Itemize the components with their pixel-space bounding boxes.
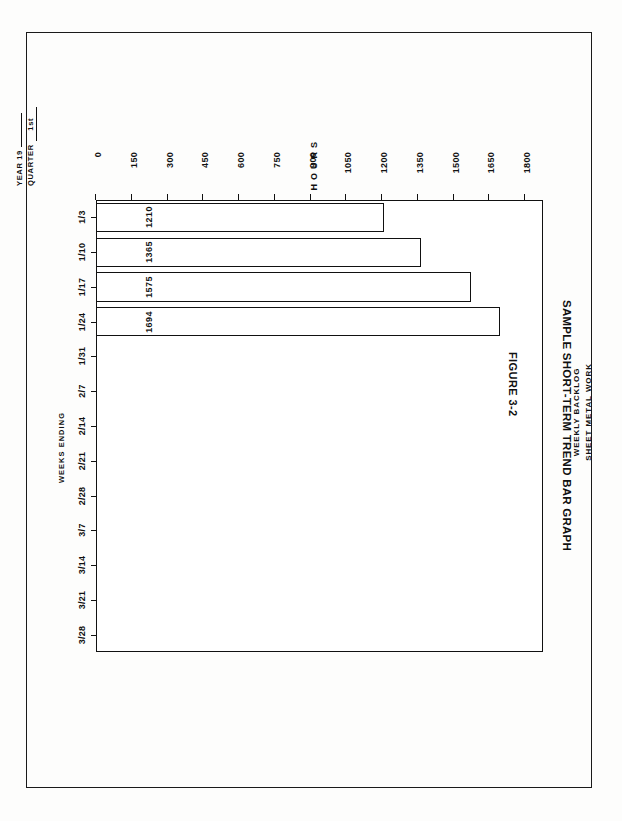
x-axis-tick bbox=[91, 565, 96, 566]
bar-chart: 1210136515751694 1/31/101/171/241/312/72… bbox=[91, 200, 543, 661]
x-axis-tick bbox=[91, 322, 96, 323]
x-axis-tick bbox=[91, 496, 96, 497]
y-axis-tick-label: 1200 bbox=[379, 152, 389, 190]
x-axis-tick-label: 2/21 bbox=[77, 444, 87, 478]
figure-caption: SAMPLE SHORT-TERM TREND BAR GRAPH bbox=[561, 300, 573, 551]
bar-value-label: 1694 bbox=[144, 306, 154, 338]
x-axis-tick bbox=[91, 356, 96, 357]
y-axis-tick bbox=[238, 194, 239, 200]
bar-value-label: 1365 bbox=[144, 236, 154, 268]
x-axis-tick bbox=[91, 461, 96, 462]
bar bbox=[96, 203, 384, 232]
x-axis-tick bbox=[91, 426, 96, 427]
x-axis-tick bbox=[91, 391, 96, 392]
y-axis-tick bbox=[167, 194, 168, 200]
y-axis-tick-label: 300 bbox=[165, 152, 175, 190]
year-field-row: YEAR 19 bbox=[14, 66, 25, 186]
x-axis-tick-label: 1/24 bbox=[77, 305, 87, 339]
y-axis-tick-label: 0 bbox=[93, 152, 103, 190]
page-canvas: YEAR 19 QUARTER1st 1210136515751694 1/31… bbox=[0, 0, 622, 821]
x-axis-tick bbox=[91, 287, 96, 288]
y-axis-tick bbox=[524, 194, 525, 200]
form-header: YEAR 19 QUARTER1st bbox=[14, 66, 94, 186]
bar-value-label: 1575 bbox=[144, 271, 154, 303]
y-axis-tick bbox=[345, 194, 346, 200]
x-axis-tick-label: 3/7 bbox=[77, 513, 87, 547]
x-axis-tick bbox=[91, 530, 96, 531]
y-axis-tick-label: 1650 bbox=[486, 152, 496, 190]
y-axis-tick bbox=[95, 194, 96, 200]
x-axis-tick bbox=[91, 600, 96, 601]
x-axis-tick-label: 3/14 bbox=[77, 548, 87, 582]
year-input[interactable] bbox=[21, 113, 22, 147]
x-axis-tick-label: 1/3 bbox=[77, 200, 87, 234]
y-axis-tick bbox=[488, 194, 489, 200]
y-axis-tick bbox=[453, 194, 454, 200]
y-axis-tick-label: 1800 bbox=[522, 152, 532, 190]
y-axis-title: HOURS bbox=[310, 138, 320, 191]
chart-subtitle: SHEET METAL WORK bbox=[583, 299, 595, 525]
y-axis-tick-label: 1050 bbox=[343, 152, 353, 190]
year-label: YEAR 19 bbox=[15, 150, 24, 186]
bar-value-label: 1210 bbox=[144, 201, 154, 233]
y-axis-tick-label: 450 bbox=[200, 152, 210, 190]
x-axis-tick-label: 1/31 bbox=[77, 339, 87, 373]
y-axis-tick bbox=[202, 194, 203, 200]
x-axis-tick-label: 2/14 bbox=[77, 409, 87, 443]
plot-area bbox=[96, 200, 543, 652]
chart-title-block: WEEKLY BACKLOG SHEET METAL WORK bbox=[571, 299, 595, 525]
x-axis-tick bbox=[91, 635, 96, 636]
x-axis-title: WEEKS ENDING bbox=[57, 412, 66, 483]
y-axis-tick bbox=[417, 194, 418, 200]
x-axis-tick-label: 2/28 bbox=[77, 479, 87, 513]
y-axis-tick-label: 150 bbox=[129, 152, 139, 190]
y-axis-tick-label: 1500 bbox=[451, 152, 461, 190]
y-axis-tick-label: 750 bbox=[272, 152, 282, 190]
y-axis-tick-label: 600 bbox=[236, 152, 246, 190]
bar bbox=[96, 307, 500, 336]
y-axis-tick bbox=[310, 194, 311, 200]
quarter-label: QUARTER bbox=[26, 144, 35, 186]
x-axis-tick-label: 1/10 bbox=[77, 235, 87, 269]
y-axis-tick bbox=[274, 194, 275, 200]
x-axis-tick-label: 3/28 bbox=[77, 618, 87, 652]
x-axis-tick-label: 3/21 bbox=[77, 583, 87, 617]
x-axis-tick-label: 1/17 bbox=[77, 270, 87, 304]
y-axis-tick-label: 1350 bbox=[415, 152, 425, 190]
y-axis-tick bbox=[131, 194, 132, 200]
quarter-field-row: QUARTER1st bbox=[25, 66, 37, 186]
quarter-input[interactable]: 1st bbox=[25, 107, 37, 141]
figure-number: FIGURE 3-2 bbox=[507, 352, 519, 417]
x-axis-tick bbox=[91, 217, 96, 218]
x-axis-tick bbox=[91, 252, 96, 253]
x-axis-tick-label: 2/7 bbox=[77, 374, 87, 408]
y-axis-tick bbox=[381, 194, 382, 200]
